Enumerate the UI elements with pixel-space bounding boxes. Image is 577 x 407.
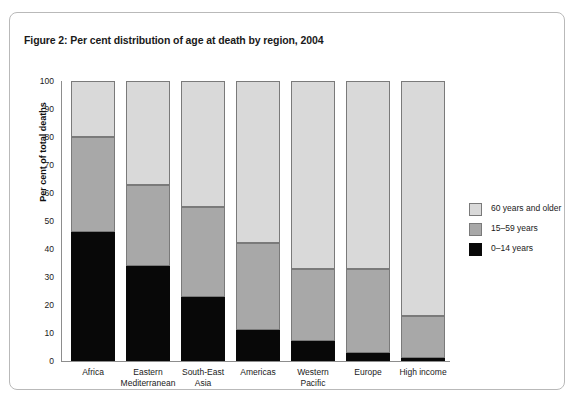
x-axis-tick-label-line: High income xyxy=(386,367,460,378)
bar-segment-0-14[interactable] xyxy=(346,353,390,361)
legend-label: 0–14 years xyxy=(491,243,533,253)
bar-group[interactable] xyxy=(126,81,170,361)
plot-area: AfricaEasternMediterraneanSouth-EastAsia… xyxy=(66,81,450,361)
figure-frame: Figure 2: Per cent distribution of age a… xyxy=(9,12,565,390)
legend-swatch xyxy=(469,223,482,236)
bar-segment-60-and-older[interactable] xyxy=(401,81,445,316)
y-axis-tick-label: 80 xyxy=(20,132,54,142)
figure-title: Figure 2: Per cent distribution of age a… xyxy=(24,34,323,46)
bar-segment-60-and-older[interactable] xyxy=(71,81,115,137)
bar-segment-15-59[interactable] xyxy=(401,316,445,358)
chart-legend: 60 years and older15–59 years0–14 years xyxy=(469,202,565,262)
y-axis-line xyxy=(61,81,62,362)
bar-segment-15-59[interactable] xyxy=(291,269,335,342)
bar-group[interactable] xyxy=(71,81,115,361)
bar-segment-0-14[interactable] xyxy=(71,232,115,361)
legend-swatch xyxy=(469,203,482,216)
bar-segment-0-14[interactable] xyxy=(181,297,225,361)
bar-segment-0-14[interactable] xyxy=(126,266,170,361)
y-axis-tick-label: 10 xyxy=(20,328,54,338)
bar-group[interactable] xyxy=(236,81,280,361)
y-axis-tick-label: 70 xyxy=(20,160,54,170)
legend-label: 60 years and older xyxy=(491,203,561,213)
y-axis-tick-label: 60 xyxy=(20,188,54,198)
bar-segment-15-59[interactable] xyxy=(181,207,225,297)
bar-segment-0-14[interactable] xyxy=(291,341,335,361)
bar-group[interactable] xyxy=(181,81,225,361)
x-axis-tick-label-line: Pacific xyxy=(276,378,350,389)
x-axis-line xyxy=(61,361,450,362)
bar-segment-0-14[interactable] xyxy=(236,330,280,361)
bar-group[interactable] xyxy=(291,81,335,361)
bar-group[interactable] xyxy=(346,81,390,361)
bar-segment-15-59[interactable] xyxy=(236,243,280,330)
bar-segment-0-14[interactable] xyxy=(401,358,445,361)
bar-group[interactable] xyxy=(401,81,445,361)
legend-swatch xyxy=(469,243,482,256)
legend-label: 15–59 years xyxy=(491,223,538,233)
legend-item[interactable]: 0–14 years xyxy=(469,242,565,262)
y-axis-tick-label: 50 xyxy=(20,216,54,226)
bar-segment-15-59[interactable] xyxy=(71,137,115,232)
bar-segment-60-and-older[interactable] xyxy=(126,81,170,185)
bar-segment-60-and-older[interactable] xyxy=(291,81,335,269)
legend-item[interactable]: 15–59 years xyxy=(469,222,565,242)
x-axis-tick-label: High income xyxy=(386,367,460,378)
bar-segment-15-59[interactable] xyxy=(346,269,390,353)
x-axis-tick-label-line: Asia xyxy=(166,378,240,389)
y-axis-tick-label: 30 xyxy=(20,272,54,282)
bar-segment-60-and-older[interactable] xyxy=(346,81,390,269)
y-axis-tick-label: 40 xyxy=(20,244,54,254)
bar-segment-60-and-older[interactable] xyxy=(181,81,225,207)
y-axis-tick-label: 20 xyxy=(20,300,54,310)
bar-segment-60-and-older[interactable] xyxy=(236,81,280,243)
y-axis-tick-labels: 0102030405060708090100 xyxy=(20,81,54,361)
y-axis-tick-label: 90 xyxy=(20,104,54,114)
legend-item[interactable]: 60 years and older xyxy=(469,202,565,222)
y-axis-tick-label: 100 xyxy=(20,76,54,86)
bar-segment-15-59[interactable] xyxy=(126,185,170,266)
y-axis-tick-label: 0 xyxy=(20,356,54,366)
